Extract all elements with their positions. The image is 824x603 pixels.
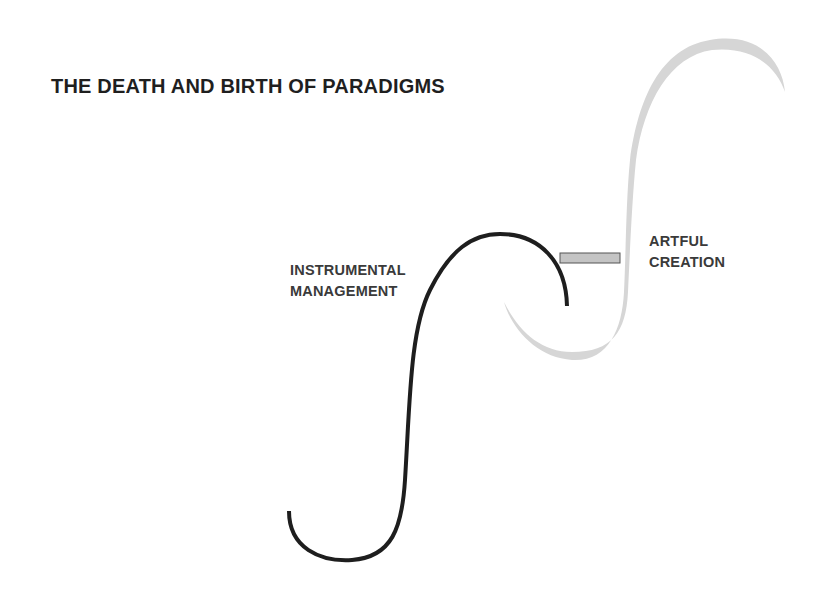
instrumental-label-line1: INSTRUMENTAL [290, 260, 406, 281]
instrumental-label-line2: MANAGEMENT [290, 281, 406, 302]
artful-label-line2: CREATION [649, 252, 725, 273]
artful-creation-label: ARTFUL CREATION [649, 231, 725, 273]
instrumental-management-label: INSTRUMENTAL MANAGEMENT [290, 260, 406, 302]
paradigm-curves [0, 0, 824, 603]
artful-creation-curve [504, 39, 785, 360]
artful-label-line1: ARTFUL [649, 231, 725, 252]
transition-bar [560, 253, 620, 263]
